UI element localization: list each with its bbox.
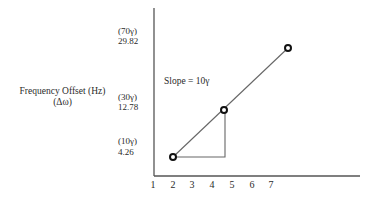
x-tick-6: 6 bbox=[246, 179, 258, 190]
data-point-1 bbox=[170, 154, 176, 160]
x-tick-4: 4 bbox=[206, 179, 218, 190]
x-tick-1: 1 bbox=[147, 179, 159, 190]
data-line bbox=[173, 48, 288, 157]
data-point-3 bbox=[285, 45, 291, 51]
x-tick-7: 7 bbox=[265, 179, 277, 190]
data-point-2 bbox=[221, 107, 227, 113]
x-tick-5: 5 bbox=[226, 179, 238, 190]
chart-plot bbox=[0, 0, 374, 201]
x-tick-3: 3 bbox=[186, 179, 198, 190]
x-tick-2: 2 bbox=[167, 179, 179, 190]
